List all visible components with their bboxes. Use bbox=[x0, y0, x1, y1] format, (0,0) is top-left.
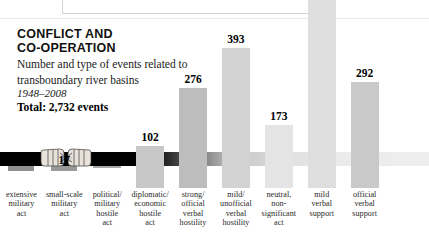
bar-diplomatic-economic-hostile-act bbox=[136, 146, 164, 188]
chart-column: mild verbal support bbox=[300, 0, 343, 245]
chart-subtitle-line1: Number and type of events related to bbox=[17, 58, 212, 71]
chart-period: 1948–2008 bbox=[17, 87, 212, 100]
bar-value-label: 173 bbox=[270, 110, 287, 122]
bar-value-label: 7 bbox=[104, 152, 110, 164]
bar-value-label: 17 bbox=[59, 154, 71, 166]
bar-value-label: 21 bbox=[16, 154, 28, 166]
chart-column: 393 mild/ unofficial verbal hostility bbox=[215, 0, 258, 245]
bar-extensive-military-act bbox=[8, 166, 34, 171]
bar-neutral-non-significant-act bbox=[265, 125, 293, 188]
bar-official-verbal-support bbox=[351, 82, 379, 188]
chart-total: Total: 2,732 events bbox=[17, 100, 212, 114]
chart-title-block: CONFLICT AND CO-OPERATION Number and typ… bbox=[17, 28, 212, 114]
bar-value-label: 292 bbox=[356, 67, 373, 79]
chart-column: 173 neutral, non- significant act bbox=[257, 0, 300, 245]
bar-mild-unofficial-verbal-hostility bbox=[222, 48, 250, 188]
bar-value-label: 393 bbox=[227, 33, 244, 45]
bar-political-military-hostile-act bbox=[93, 166, 121, 168]
bar-mild-verbal-support bbox=[308, 0, 336, 188]
chart-title-line2: CO-OPERATION bbox=[17, 42, 212, 56]
category-label-official-verbal-support: official verbal support bbox=[339, 190, 391, 218]
chart-subtitle-line2: transboundary river basins bbox=[17, 74, 212, 87]
bar-value-label: 102 bbox=[142, 131, 159, 143]
chart-column: 292 official verbal support bbox=[343, 0, 386, 245]
chart-title-line1: CONFLICT AND bbox=[17, 28, 212, 42]
